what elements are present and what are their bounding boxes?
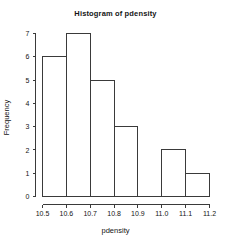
- y-tick-label: 0: [26, 193, 30, 200]
- x-tick-label: 10.9: [131, 210, 145, 217]
- y-tick-label: 5: [26, 77, 30, 84]
- histogram-bar: [66, 34, 90, 197]
- x-tick-label: 11.0: [155, 210, 168, 217]
- x-tick-label: 11.1: [179, 210, 192, 217]
- y-tick-label: 1: [26, 170, 30, 177]
- x-tick-label: 10.6: [60, 210, 74, 217]
- x-tick-label: 10.5: [36, 210, 50, 217]
- plot-canvas: 01234567 10.510.610.710.810.911.011.111.…: [0, 0, 231, 250]
- y-axis: [33, 34, 36, 197]
- y-tick-label: 3: [26, 123, 30, 130]
- histogram-bar: [43, 57, 67, 197]
- histogram-plot: Histogram of pdensity Frequency pdensity…: [0, 0, 231, 250]
- y-tick-label: 7: [26, 30, 30, 37]
- y-tick-labels: 01234567: [26, 30, 30, 200]
- x-tick-labels: 10.510.610.710.810.911.011.111.2: [36, 210, 216, 217]
- histogram-bar: [162, 150, 186, 197]
- histogram-bar: [186, 173, 210, 196]
- y-tick-label: 6: [26, 53, 30, 60]
- y-tick-label: 2: [26, 147, 30, 154]
- x-tick-label: 10.7: [83, 210, 97, 217]
- histogram-bar: [90, 80, 114, 196]
- histogram-bar: [114, 127, 138, 197]
- y-tick-label: 4: [26, 100, 30, 107]
- x-tick-label: 11.2: [203, 210, 216, 217]
- bars-group: [43, 34, 210, 197]
- x-tick-label: 10.8: [107, 210, 121, 217]
- x-axis: [43, 205, 210, 208]
